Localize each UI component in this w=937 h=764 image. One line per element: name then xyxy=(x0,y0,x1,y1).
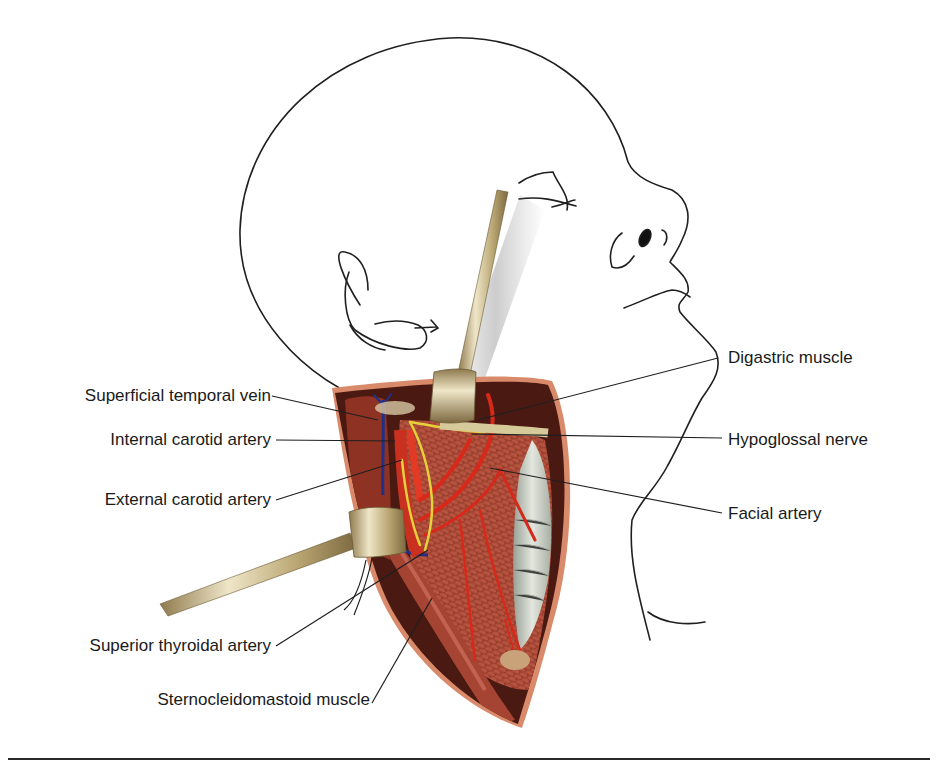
bottom-rule xyxy=(8,758,930,760)
anatomy-figure: Superficial temporal vein Internal carot… xyxy=(0,0,937,764)
label-superior-thyroidal-artery: Superior thyroidal artery xyxy=(90,636,271,656)
label-internal-carotid-artery: Internal carotid artery xyxy=(110,430,271,450)
lower-retractor-handle xyxy=(160,533,356,616)
label-digastric-muscle: Digastric muscle xyxy=(728,348,853,368)
label-sternocleidomastoid-muscle: Sternocleidomastoid muscle xyxy=(157,690,370,710)
label-superficial-temporal-vein: Superficial temporal vein xyxy=(85,386,271,406)
upper-retractor-blade xyxy=(430,369,476,423)
label-external-carotid-artery: External carotid artery xyxy=(105,490,271,510)
label-facial-artery: Facial artery xyxy=(728,504,822,524)
label-hypoglossal-nerve: Hypoglossal nerve xyxy=(728,430,868,450)
lower-retractor-blade xyxy=(349,507,406,557)
